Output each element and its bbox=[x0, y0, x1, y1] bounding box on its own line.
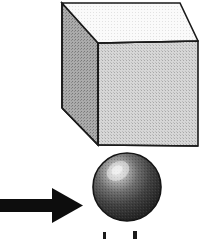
figure-canvas bbox=[0, 0, 199, 239]
arrow-right bbox=[0, 188, 83, 223]
diagram-svg bbox=[0, 0, 199, 239]
cube-front-face bbox=[98, 41, 198, 146]
cube bbox=[62, 3, 198, 146]
cube-edge-bottom-front bbox=[98, 145, 198, 146]
arrow-head bbox=[52, 188, 83, 223]
sphere bbox=[93, 153, 161, 221]
arrow-shaft bbox=[0, 199, 55, 212]
